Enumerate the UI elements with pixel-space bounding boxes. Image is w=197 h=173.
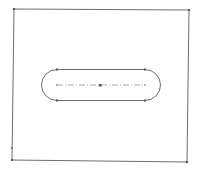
vertex-point[interactable] <box>11 147 13 149</box>
slot-center-point[interactable] <box>99 84 102 87</box>
sketch-canvas[interactable] <box>0 0 197 173</box>
tangent-point[interactable] <box>56 69 58 71</box>
vertex-point[interactable] <box>188 9 190 11</box>
arc-center-point[interactable] <box>144 84 146 86</box>
tangent-point[interactable] <box>56 100 58 102</box>
vertex-point[interactable] <box>13 8 15 10</box>
tangent-point[interactable] <box>144 100 146 102</box>
vertex-point[interactable] <box>186 161 188 163</box>
tangent-point[interactable] <box>144 69 146 71</box>
arc-center-point[interactable] <box>56 84 58 86</box>
vertex-point[interactable] <box>11 159 13 161</box>
